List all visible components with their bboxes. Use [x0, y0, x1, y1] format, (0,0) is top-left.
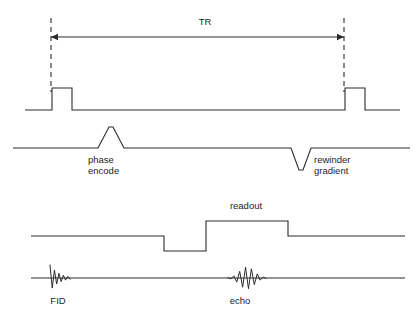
tr-label: TR	[199, 16, 212, 27]
tr-arrow-head-right	[337, 34, 344, 40]
pulse-sequence-canvas: TR phase encode rewinder gradient readou…	[0, 0, 418, 314]
pulse-sequence-diagram: TR phase encode rewinder gradient readou…	[0, 0, 418, 314]
tr-arrow-head-left	[51, 34, 58, 40]
rewinder-gradient-label-line2: gradient	[314, 165, 349, 176]
phase-encode-label-line1: phase	[88, 154, 114, 165]
tr-arrow	[51, 34, 344, 40]
phase-encode-label-line2: encode	[88, 165, 119, 176]
readout-gradient-waveform	[31, 221, 405, 251]
readout-label: readout	[230, 200, 263, 211]
phase-encode-gradient-waveform	[13, 127, 410, 170]
fid-label: FID	[50, 295, 65, 306]
echo-label: echo	[230, 295, 251, 306]
fid-signal-waveform	[50, 265, 70, 288]
rewinder-gradient-label-line1: rewinder	[314, 154, 350, 165]
